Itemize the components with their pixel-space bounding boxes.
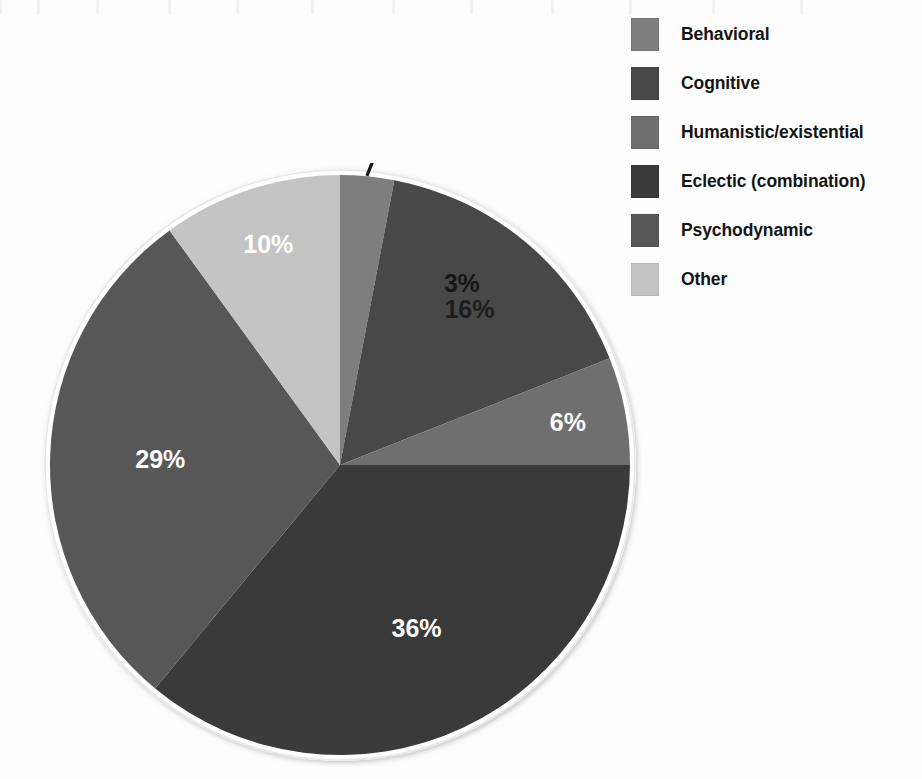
legend-label-cognitive: Cognitive bbox=[681, 73, 760, 94]
legend-label-behavioral: Behavioral bbox=[681, 24, 769, 45]
legend-swatch-psychodynamic bbox=[631, 214, 659, 247]
legend-swatch-humanistic-existential bbox=[631, 116, 659, 149]
legend-swatch-other bbox=[631, 263, 659, 296]
legend-label-humanistic-existential: Humanistic/existential bbox=[681, 122, 864, 143]
pie-slice-label-cognitive: 16% bbox=[444, 295, 494, 323]
legend-item-behavioral[interactable]: Behavioral bbox=[631, 18, 922, 51]
pie-slice-label-other: 10% bbox=[243, 230, 293, 258]
legend-swatch-behavioral bbox=[631, 18, 659, 51]
pie-slice-label-humanistic: 6% bbox=[550, 408, 586, 436]
callout-label-behavioral: 3% bbox=[444, 269, 479, 298]
legend-swatch-cognitive bbox=[631, 67, 659, 100]
legend-item-cognitive[interactable]: Cognitive bbox=[631, 67, 922, 100]
legend-label-eclectic-combination: Eclectic (combination) bbox=[681, 171, 866, 192]
chart-legend: Behavioral Cognitive Humanistic/existent… bbox=[631, 18, 922, 312]
legend-item-eclectic-combination[interactable]: Eclectic (combination) bbox=[631, 165, 922, 198]
pie-chart: 16%6%36%29%10% 3% bbox=[38, 163, 642, 767]
legend-item-psychodynamic[interactable]: Psychodynamic bbox=[631, 214, 922, 247]
legend-label-psychodynamic: Psychodynamic bbox=[681, 220, 813, 241]
legend-item-other[interactable]: Other bbox=[631, 263, 922, 296]
legend-label-other: Other bbox=[681, 269, 727, 290]
pie-chart-svg: 16%6%36%29%10% bbox=[38, 163, 642, 767]
page-background-texture bbox=[0, 0, 922, 14]
pie-slice-label-eclectic: 36% bbox=[392, 614, 442, 642]
pie-slice-label-psychodynamic: 29% bbox=[135, 445, 185, 473]
legend-swatch-eclectic-combination bbox=[631, 165, 659, 198]
legend-item-humanistic-existential[interactable]: Humanistic/existential bbox=[631, 116, 922, 149]
